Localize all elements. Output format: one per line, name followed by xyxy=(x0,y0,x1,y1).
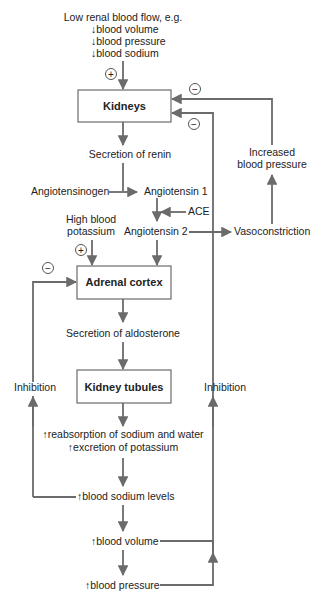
svg-text:−: − xyxy=(45,263,51,274)
high-potassium-label-line1: High blood xyxy=(66,213,116,225)
trigger-heading: Low renal blood flow, e.g. xyxy=(64,11,183,23)
kidney-tubules-box: Kidney tubules xyxy=(77,370,171,403)
kidneys-box: Kidneys xyxy=(78,90,171,122)
minus-sign-icon: − xyxy=(189,119,200,130)
inhibition-right-label: Inhibition xyxy=(204,381,246,393)
minus-sign-icon: − xyxy=(43,263,54,274)
increased-bp-label-line1: Increased xyxy=(249,146,295,158)
raas-diagram: Low renal blood flow, e.g. ↓blood volume… xyxy=(0,0,325,595)
svg-text:−: − xyxy=(192,84,198,95)
trigger-item-blood-pressure: ↓blood pressure xyxy=(91,35,166,47)
increased-bp-label-line2: blood pressure xyxy=(237,158,307,170)
secretion-of-renin-label: Secretion of renin xyxy=(89,148,171,160)
adrenal-cortex-label: Adrenal cortex xyxy=(85,276,163,288)
blood-volume-label: ↑blood volume xyxy=(91,535,159,547)
excretion-label: ↑excretion of potassium xyxy=(68,441,179,453)
blood-sodium-levels-label: ↑blood sodium levels xyxy=(77,490,174,502)
blood-pressure-label: ↑blood pressure xyxy=(85,579,160,591)
adrenal-cortex-box: Adrenal cortex xyxy=(77,266,171,299)
arrow-blood-pressure-up xyxy=(160,553,213,585)
line-blood-volume-right xyxy=(160,541,213,557)
angiotensin1-label: Angiotensin 1 xyxy=(144,185,208,197)
trigger-block: Low renal blood flow, e.g. ↓blood volume… xyxy=(64,11,183,59)
high-potassium-label-line2: potassium xyxy=(67,225,115,237)
trigger-item-blood-sodium: ↓blood sodium xyxy=(91,47,159,59)
kidneys-label: Kidneys xyxy=(103,100,146,112)
vasoconstriction-label: Vasoconstriction xyxy=(234,225,310,237)
angiotensinogen-label: Angiotensinogen xyxy=(31,185,109,197)
secretion-of-aldosterone-label: Secretion of aldosterone xyxy=(66,327,180,339)
kidney-tubules-label: Kidney tubules xyxy=(85,381,164,393)
ace-label: ACE xyxy=(188,205,210,217)
svg-text:+: + xyxy=(108,69,114,80)
inhibition-left-label: Inhibition xyxy=(14,381,56,393)
arrow-increased-bp-to-kidneys xyxy=(172,99,272,145)
svg-text:+: + xyxy=(78,245,84,256)
reabsorption-label: ↑reabsorption of sodium and water xyxy=(42,428,204,440)
angiotensin2-label: Angiotensin 2 xyxy=(124,225,188,237)
minus-sign-icon: − xyxy=(190,84,201,95)
plus-sign-icon: + xyxy=(76,245,87,256)
trigger-item-blood-volume: ↓blood volume xyxy=(91,23,159,35)
svg-text:−: − xyxy=(191,119,197,130)
plus-sign-icon: + xyxy=(106,69,117,80)
